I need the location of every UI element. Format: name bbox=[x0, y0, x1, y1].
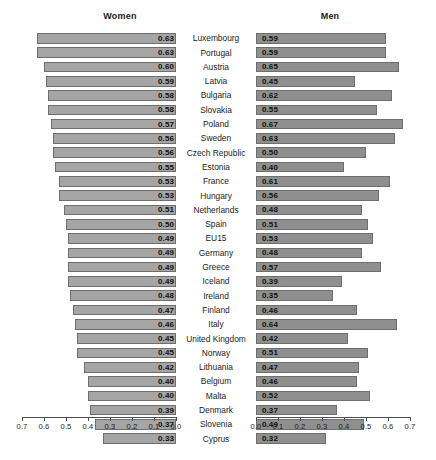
men-bar-value: 0.40 bbox=[262, 162, 278, 173]
men-bar-value: 0.67 bbox=[262, 119, 278, 130]
bar-row: 0.58Bulgaria0.62 bbox=[0, 89, 436, 103]
men-bar-value: 0.56 bbox=[262, 190, 278, 201]
men-axis-tick bbox=[388, 417, 389, 421]
men-bar-value: 0.64 bbox=[262, 319, 278, 330]
women-bar-value: 0.40 bbox=[158, 376, 174, 387]
women-axis-tick bbox=[154, 417, 155, 421]
bar-row: 0.46Italy0.64 bbox=[0, 318, 436, 332]
women-bar-value: 0.47 bbox=[158, 305, 174, 316]
country-label: Spain bbox=[178, 218, 254, 230]
women-bar-value: 0.56 bbox=[158, 133, 174, 144]
country-label: Estonia bbox=[178, 161, 254, 173]
bar-row: 0.33Cyprus0.32 bbox=[0, 432, 436, 446]
bar-row: 0.47Finland0.46 bbox=[0, 303, 436, 317]
women-bar-value: 0.40 bbox=[158, 390, 174, 401]
men-bar-value: 0.45 bbox=[262, 76, 278, 87]
country-label: Italy bbox=[178, 318, 254, 330]
bar-row: 0.45Norway0.51 bbox=[0, 346, 436, 360]
country-label: Bulgaria bbox=[178, 89, 254, 101]
men-axis-tick bbox=[300, 417, 301, 421]
men-bar-value: 0.52 bbox=[262, 390, 278, 401]
country-label: Portugal bbox=[178, 47, 254, 59]
bar-row: 0.59Latvia0.45 bbox=[0, 74, 436, 88]
bar-row: 0.45United Kingdom0.42 bbox=[0, 332, 436, 346]
country-label: Austria bbox=[178, 61, 254, 73]
bar-row: 0.53France0.61 bbox=[0, 175, 436, 189]
bar-row: 0.39Denmark0.37 bbox=[0, 403, 436, 417]
men-axis-line bbox=[256, 417, 410, 418]
women-bar-value: 0.45 bbox=[158, 347, 174, 358]
country-label: Norway bbox=[178, 347, 254, 359]
bar-row: 0.40Malta0.52 bbox=[0, 389, 436, 403]
country-label: Cyprus bbox=[178, 433, 254, 445]
women-axis-tick bbox=[132, 417, 133, 421]
paired-bar-chart: Women Men 0.63Luxembourg0.590.63Portugal… bbox=[0, 0, 436, 460]
bar-row: 0.63Portugal0.59 bbox=[0, 46, 436, 60]
men-bar-value: 0.48 bbox=[262, 204, 278, 215]
country-label: Germany bbox=[178, 247, 254, 259]
bar-row: 0.50Spain0.51 bbox=[0, 217, 436, 231]
women-bar-value: 0.42 bbox=[158, 362, 174, 373]
men-axis-tick bbox=[278, 417, 279, 421]
women-bar-value: 0.49 bbox=[158, 262, 174, 273]
women-bar bbox=[44, 62, 176, 73]
women-bar-value: 0.53 bbox=[158, 176, 174, 187]
bar-rows-container: 0.63Luxembourg0.590.63Portugal0.590.60Au… bbox=[0, 0, 436, 460]
bar-row: 0.51Netherlands0.48 bbox=[0, 203, 436, 217]
men-bar-value: 0.53 bbox=[262, 233, 278, 244]
women-bar-value: 0.46 bbox=[158, 319, 174, 330]
women-bar-value: 0.48 bbox=[158, 290, 174, 301]
bar-row: 0.49Iceland0.39 bbox=[0, 275, 436, 289]
women-axis-tick bbox=[110, 417, 111, 421]
country-label: France bbox=[178, 175, 254, 187]
men-bar-value: 0.47 bbox=[262, 362, 278, 373]
women-bar-value: 0.55 bbox=[158, 162, 174, 173]
men-axis-tick bbox=[344, 417, 345, 421]
women-bar bbox=[48, 105, 176, 116]
women-bar-value: 0.56 bbox=[158, 147, 174, 158]
men-bar-value: 0.39 bbox=[262, 276, 278, 287]
bar-row: 0.49Greece0.57 bbox=[0, 260, 436, 274]
bar-row: 0.49Germany0.48 bbox=[0, 246, 436, 260]
men-bar-value: 0.61 bbox=[262, 176, 278, 187]
country-label: Poland bbox=[178, 118, 254, 130]
men-bar-value: 0.46 bbox=[262, 376, 278, 387]
women-bar-value: 0.53 bbox=[158, 190, 174, 201]
bar-row: 0.56Sweden0.63 bbox=[0, 132, 436, 146]
men-bar-value: 0.59 bbox=[262, 47, 278, 58]
bar-row: 0.49EU150.53 bbox=[0, 232, 436, 246]
bar-row: 0.40Belgium0.46 bbox=[0, 375, 436, 389]
bar-row: 0.60Austria0.65 bbox=[0, 60, 436, 74]
men-axis-tick bbox=[410, 417, 411, 421]
country-label: EU15 bbox=[178, 232, 254, 244]
country-label: Ireland bbox=[178, 290, 254, 302]
women-bar-value: 0.60 bbox=[158, 61, 174, 72]
men-bar-value: 0.65 bbox=[262, 61, 278, 72]
women-axis-tick-label: 0.0 bbox=[161, 422, 191, 431]
women-axis-tick bbox=[22, 417, 23, 421]
men-bar-value: 0.42 bbox=[262, 333, 278, 344]
men-bar-value: 0.48 bbox=[262, 247, 278, 258]
bar-row: 0.55Estonia0.40 bbox=[0, 160, 436, 174]
bar-row: 0.63Luxembourg0.59 bbox=[0, 32, 436, 46]
women-bar-value: 0.63 bbox=[158, 47, 174, 58]
women-bar-value: 0.51 bbox=[158, 204, 174, 215]
women-axis-line bbox=[22, 417, 176, 418]
women-axis-tick bbox=[88, 417, 89, 421]
men-bar-value: 0.32 bbox=[262, 433, 278, 444]
country-label: Netherlands bbox=[178, 204, 254, 216]
men-bar-value: 0.46 bbox=[262, 305, 278, 316]
men-axis-tick bbox=[256, 417, 257, 421]
men-axis-tick bbox=[366, 417, 367, 421]
men-bar-value: 0.55 bbox=[262, 104, 278, 115]
bar-row: 0.53Hungary0.56 bbox=[0, 189, 436, 203]
men-bar-value: 0.51 bbox=[262, 347, 278, 358]
men-bar-value: 0.57 bbox=[262, 262, 278, 273]
country-label: United Kingdom bbox=[178, 333, 254, 345]
country-label: Malta bbox=[178, 390, 254, 402]
men-bar-value: 0.50 bbox=[262, 147, 278, 158]
women-bar-value: 0.59 bbox=[158, 76, 174, 87]
men-bar-value: 0.59 bbox=[262, 33, 278, 44]
men-axis-tick bbox=[322, 417, 323, 421]
women-bar-value: 0.50 bbox=[158, 219, 174, 230]
